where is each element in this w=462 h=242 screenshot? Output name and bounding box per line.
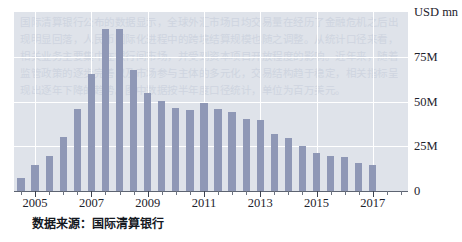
bar xyxy=(46,156,53,191)
x-tick xyxy=(77,191,78,195)
x-tick xyxy=(274,191,275,195)
bar xyxy=(74,109,81,191)
bar xyxy=(60,137,67,191)
x-tick xyxy=(359,191,360,195)
x-tick xyxy=(63,191,64,195)
bar xyxy=(130,70,137,191)
x-tick xyxy=(176,191,177,195)
bar xyxy=(369,165,376,191)
x-axis-label-2009: 2009 xyxy=(135,196,160,211)
plot-area: 国际清算银行公布的数据显示，全球外汇市场日均交易量在经历了金融危机之后出现明显回… xyxy=(14,12,408,191)
bar xyxy=(243,119,250,191)
bar xyxy=(116,29,123,191)
x-axis-label-2005: 2005 xyxy=(23,196,48,211)
x-tick xyxy=(190,191,191,195)
x-tick xyxy=(162,191,163,195)
y-axis-title: USD mn xyxy=(414,5,458,20)
x-tick xyxy=(401,191,402,195)
bar xyxy=(88,74,95,191)
x-axis-label-2011: 2011 xyxy=(192,196,217,211)
x-tick xyxy=(345,191,346,195)
bar xyxy=(228,112,235,191)
y-axis-label-75M: 75M xyxy=(414,50,438,65)
x-axis-line xyxy=(14,191,408,192)
x-tick xyxy=(246,191,247,195)
bar-series xyxy=(14,12,408,191)
bar xyxy=(327,156,334,191)
bar xyxy=(355,163,362,191)
chart-figure: 国际清算银行公布的数据显示，全球外汇市场日均交易量在经历了金融危机之后出现明显回… xyxy=(0,0,462,242)
bar xyxy=(299,146,306,191)
bar xyxy=(144,93,151,191)
bar xyxy=(257,120,264,191)
x-tick xyxy=(331,191,332,195)
x-tick xyxy=(21,191,22,195)
bar xyxy=(31,165,38,191)
bar xyxy=(172,108,179,191)
x-tick xyxy=(288,191,289,195)
x-axis-label-2015: 2015 xyxy=(304,196,329,211)
bar xyxy=(17,178,24,191)
x-axis-label-2007: 2007 xyxy=(79,196,104,211)
bar xyxy=(200,103,207,191)
source-note: 数据来源：国际清算银行 xyxy=(32,214,164,231)
x-axis-label-2013: 2013 xyxy=(248,196,273,211)
x-tick xyxy=(105,191,106,195)
bar xyxy=(186,110,193,191)
bar xyxy=(271,134,278,191)
x-axis-label-2017: 2017 xyxy=(360,196,385,211)
bar xyxy=(102,29,109,191)
bar xyxy=(214,109,221,191)
x-tick xyxy=(120,191,121,195)
x-tick xyxy=(218,191,219,195)
x-tick xyxy=(387,191,388,195)
bar xyxy=(341,157,348,191)
x-tick xyxy=(134,191,135,195)
bar xyxy=(285,138,292,191)
x-tick xyxy=(232,191,233,195)
x-tick xyxy=(49,191,50,195)
y-axis-label-25M: 25M xyxy=(414,139,438,154)
bar xyxy=(158,101,165,191)
x-tick xyxy=(302,191,303,195)
bar xyxy=(313,153,320,191)
y-axis-label-0: 0 xyxy=(414,184,420,199)
y-axis-label-50M: 50M xyxy=(414,94,438,109)
